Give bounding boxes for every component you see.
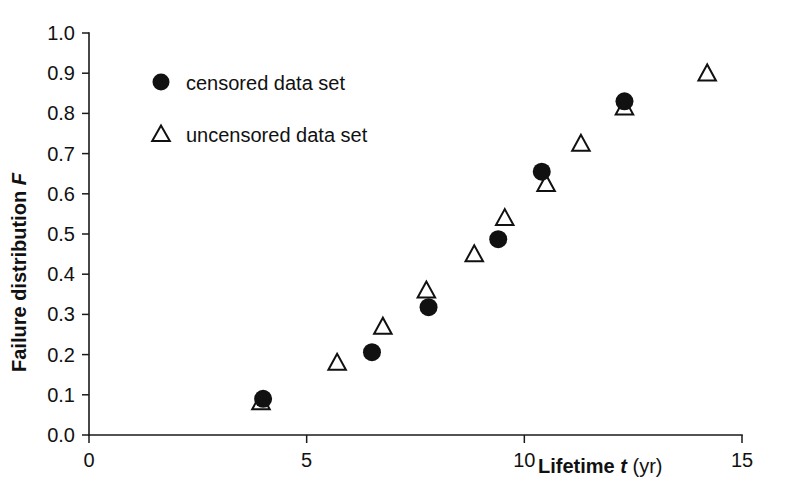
legend-marker-open-triangle	[152, 126, 170, 142]
data-point-triangle	[374, 318, 392, 334]
x-tick-label: 10	[513, 449, 535, 471]
x-tick-label: 0	[83, 449, 94, 471]
data-point-circle	[254, 390, 272, 408]
y-axis-tick-labels: 0.00.10.20.30.40.50.60.70.80.91.0	[47, 22, 75, 446]
figure-container: 0.00.10.20.30.40.50.60.70.80.91.0 Failur…	[0, 0, 786, 491]
y-tick-label: 0.6	[47, 183, 75, 205]
legend-label-uncensored: uncensored data set	[186, 124, 368, 146]
data-point-circle	[615, 92, 633, 110]
data-point-circle	[533, 163, 551, 181]
legend-label-censored: censored data set	[186, 72, 345, 94]
series-uncensored-data-set	[252, 64, 716, 409]
data-point-triangle	[328, 354, 346, 370]
scatter-plot: 0.00.10.20.30.40.50.60.70.80.91.0 Failur…	[0, 0, 786, 491]
y-tick-label: 0.9	[47, 62, 75, 84]
data-point-triangle	[496, 209, 514, 225]
y-tick-label: 0.1	[47, 384, 75, 406]
x-axis: 051015 Lifetime t (yr)	[83, 435, 753, 477]
y-tick-label: 0.7	[47, 143, 75, 165]
legend-marker-filled-circle	[153, 74, 170, 91]
y-axis-title: Failure distribution F	[8, 172, 30, 372]
y-tick-label: 0.2	[47, 344, 75, 366]
data-point-triangle	[698, 64, 716, 80]
x-axis-ticks	[89, 435, 742, 443]
data-point-triangle	[418, 281, 436, 297]
y-tick-label: 0.5	[47, 223, 75, 245]
y-axis: 0.00.10.20.30.40.50.60.70.80.91.0 Failur…	[8, 22, 89, 446]
y-tick-label: 1.0	[47, 22, 75, 44]
data-point-triangle	[466, 245, 484, 261]
x-tick-label: 15	[731, 449, 753, 471]
y-tick-label: 0.4	[47, 263, 75, 285]
x-tick-label: 5	[301, 449, 312, 471]
legend: censored data set uncensored data set	[152, 72, 367, 146]
data-point-triangle	[572, 135, 590, 151]
x-axis-title: Lifetime t (yr)	[538, 455, 662, 477]
data-point-circle	[489, 230, 507, 248]
y-tick-label: 0.8	[47, 102, 75, 124]
y-axis-ticks	[82, 33, 89, 435]
data-point-circle	[363, 343, 381, 361]
y-tick-label: 0.3	[47, 303, 75, 325]
y-tick-label: 0.0	[47, 424, 75, 446]
data-point-circle	[420, 298, 438, 316]
